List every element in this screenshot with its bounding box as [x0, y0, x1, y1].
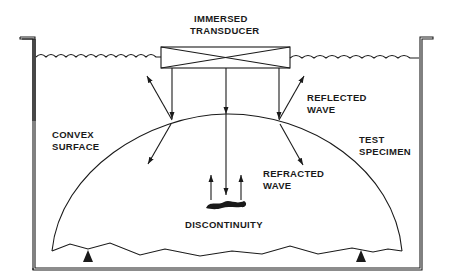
discontinuity-flaw [206, 201, 246, 209]
label-discontinuity: DISCONTINUITY [185, 219, 263, 230]
label-refracted-2: WAVE [263, 180, 291, 191]
immersion-testing-diagram: IMMERSED TRANSDUCER REFLECTED WAVE CONVE… [0, 0, 449, 279]
label-transducer-1: IMMERSED [194, 13, 248, 24]
label-reflected-1: REFLECTED [307, 92, 367, 103]
label-transducer-2: TRANSDUCER [190, 25, 260, 36]
label-test-1: TEST [359, 134, 384, 145]
refracted-wave-left [148, 124, 171, 164]
label-convex-2: SURFACE [52, 141, 100, 152]
water-surface-left [36, 55, 161, 58]
reflected-wave-right [279, 76, 304, 120]
support-left-icon [83, 250, 93, 262]
refracted-wave-right [280, 124, 303, 165]
label-convex-1: CONVEX [52, 129, 94, 140]
test-specimen-dome [52, 114, 402, 251]
water-surface-right [290, 56, 419, 59]
label-test-2: SPECIMEN [359, 146, 411, 157]
specimen-bottom-edge [52, 243, 402, 256]
label-reflected-2: WAVE [307, 104, 335, 115]
label-refracted-1: REFRACTED [263, 168, 324, 179]
support-right-icon [356, 250, 366, 262]
transducer [161, 47, 290, 68]
reflected-wave-left [147, 76, 172, 120]
